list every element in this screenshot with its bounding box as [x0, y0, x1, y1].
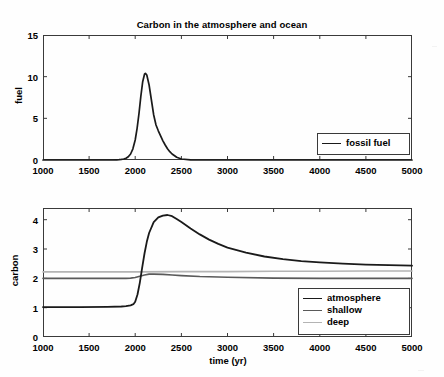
- top-x-tick-label: 2000: [112, 165, 158, 176]
- legend-label: fossil fuel: [346, 137, 390, 149]
- scan-artifact: [432, 46, 437, 47]
- legend-item-shallow: shallow: [303, 304, 404, 316]
- bottom-x-tick-label: 4000: [297, 342, 343, 353]
- top-x-tick-label: 3500: [251, 165, 297, 176]
- legend-label: deep: [327, 316, 349, 328]
- bottom-x-tick-label: 3500: [251, 342, 297, 353]
- series-deep: [43, 271, 412, 272]
- top-x-tick-label: 2500: [158, 165, 204, 176]
- top-x-tick-label: 4000: [297, 165, 343, 176]
- top-x-tick-label: 1500: [66, 165, 112, 176]
- legend-swatch-line: [322, 143, 341, 144]
- top-y-tick-label: 0: [18, 155, 38, 166]
- bottom-x-tick-label: 2500: [158, 342, 204, 353]
- figure-canvas: Carbon in the atmosphere and ocean fuel …: [0, 0, 444, 377]
- bottom-x-tick-label: 4500: [343, 342, 389, 353]
- legend-item-fossil-fuel: fossil fuel: [322, 137, 404, 149]
- bottom-y-tick-label: 2: [18, 273, 38, 284]
- top-x-tick-label: 4500: [343, 165, 389, 176]
- bottom-x-axis-label: time (yr): [163, 355, 293, 366]
- top-x-tick-label: 1000: [20, 165, 66, 176]
- bottom-y-tick-label: 4: [18, 214, 38, 225]
- top-legend: fossil fuel: [317, 133, 410, 155]
- legend-item-atmosphere: atmosphere: [303, 292, 404, 304]
- top-y-tick-label: 10: [18, 71, 38, 82]
- legend-swatch-line: [303, 310, 322, 311]
- bottom-x-tick-label: 5000: [389, 342, 435, 353]
- chart-title: Carbon in the atmosphere and ocean: [0, 19, 444, 30]
- bottom-x-tick-label: 1000: [20, 342, 66, 353]
- legend-label: atmosphere: [327, 292, 381, 304]
- legend-swatch-line: [303, 298, 322, 299]
- top-y-tick-label: 5: [18, 113, 38, 124]
- top-y-tick-label: 15: [18, 30, 38, 41]
- bottom-legend: atmosphere shallow deep: [298, 288, 410, 335]
- bottom-x-tick-label: 1500: [66, 342, 112, 353]
- series-shallow: [43, 274, 412, 278]
- top-x-tick-label: 3000: [205, 165, 251, 176]
- bottom-x-tick-label: 2000: [112, 342, 158, 353]
- scan-artifact: [418, 370, 424, 371]
- legend-item-deep: deep: [303, 316, 404, 328]
- legend-swatch-line: [303, 322, 322, 323]
- bottom-x-tick-label: 3000: [205, 342, 251, 353]
- top-x-tick-label: 5000: [389, 165, 435, 176]
- legend-label: shallow: [327, 304, 362, 316]
- bottom-y-tick-label: 0: [18, 332, 38, 343]
- bottom-y-axis-label: carbon: [9, 251, 20, 291]
- bottom-y-tick-label: 1: [18, 302, 38, 313]
- bottom-y-tick-label: 3: [18, 244, 38, 255]
